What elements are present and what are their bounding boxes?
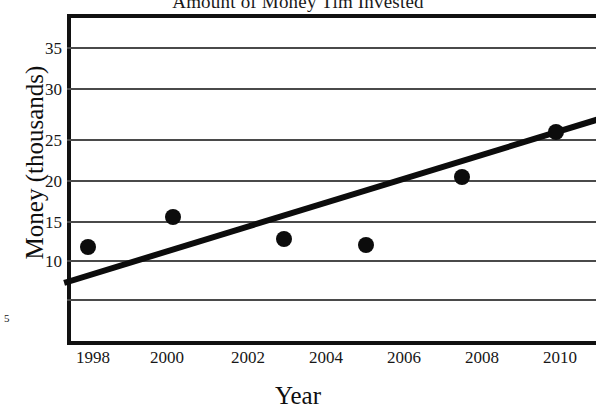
data-point [165,209,181,225]
x-tick-label-2008: 2008 [455,349,509,366]
y-tick-label-5: 5 [4,313,10,324]
data-point [548,124,564,140]
x-tick-label-1998: 1998 [66,349,120,366]
x-tick-label-2004: 2004 [299,349,353,366]
x-tick-label-2006: 2006 [377,349,431,366]
plot-area [67,14,596,345]
data-point [358,237,374,253]
x-axis-title: Year [0,383,596,408]
data-point [80,239,96,255]
chart-title: Amount of Money Tim Invested [0,0,596,13]
x-tick-label-2010: 2010 [533,349,587,366]
trend-line [67,14,596,345]
y-axis-title: Money (thousands) [22,33,47,293]
x-tick-label-2002: 2002 [221,349,275,366]
data-point [454,169,470,185]
chart-figure: Amount of Money Tim Invested 35 30 25 20… [0,0,596,413]
x-tick-label-2000: 2000 [140,349,194,366]
data-point [276,231,292,247]
